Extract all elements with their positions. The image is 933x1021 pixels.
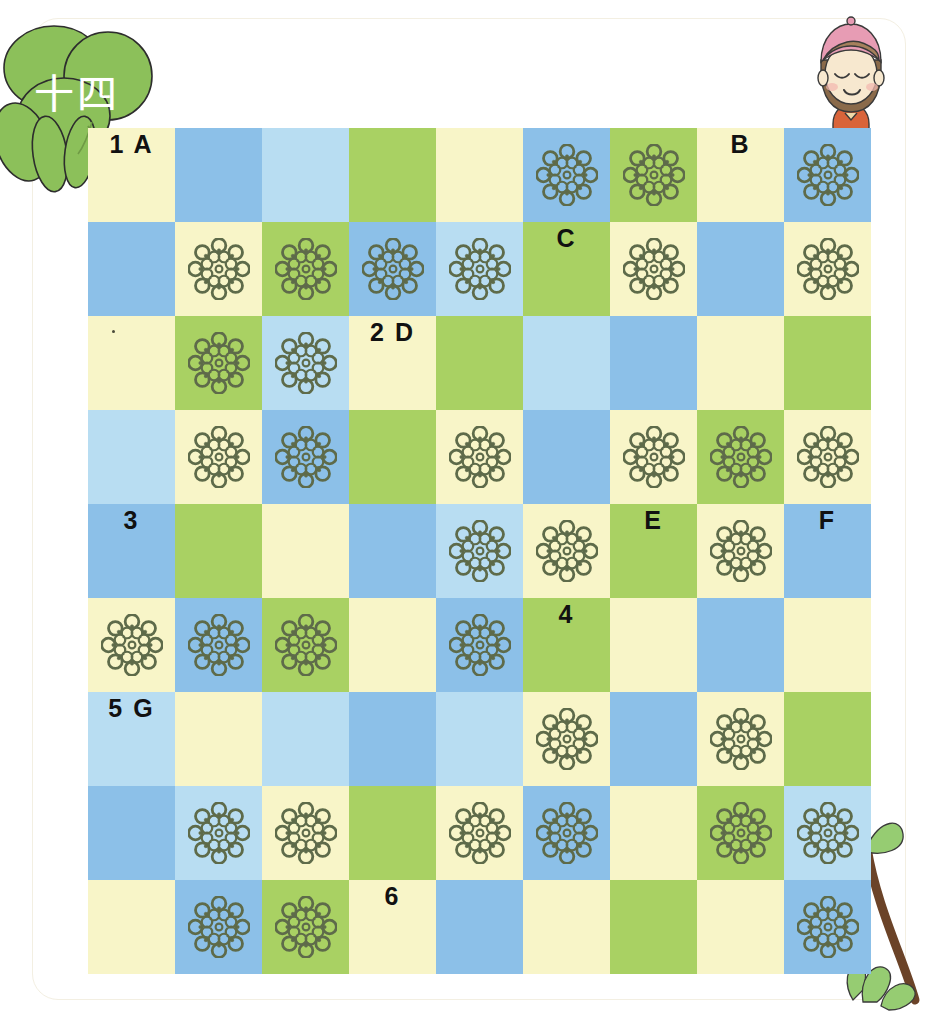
- grid-cell-r6-c2[interactable]: [175, 598, 262, 692]
- grid-cell-r9-c8[interactable]: [697, 880, 784, 974]
- grid-cell-r9-c3[interactable]: [262, 880, 349, 974]
- grid-cell-r8-c6[interactable]: [523, 786, 610, 880]
- flower-rosette-icon: [710, 520, 772, 582]
- grid-cell-r9-c7[interactable]: [610, 880, 697, 974]
- grid-cell-r8-c1[interactable]: [88, 786, 175, 880]
- grid-cell-r1-c9[interactable]: [784, 128, 871, 222]
- grid-cell-r8-c7[interactable]: [610, 786, 697, 880]
- grid-cell-r5-c7[interactable]: E: [610, 504, 697, 598]
- checkerboard-grid: 1 ABC2 D3EF45 G6: [88, 128, 871, 974]
- grid-cell-r6-c6[interactable]: 4: [523, 598, 610, 692]
- grid-cell-r9-c1[interactable]: [88, 880, 175, 974]
- grid-cell-r5-c9[interactable]: F: [784, 504, 871, 598]
- flower-rosette-icon: [101, 614, 163, 676]
- grid-cell-r5-c8[interactable]: [697, 504, 784, 598]
- grid-cell-r7-c3[interactable]: [262, 692, 349, 786]
- grid-cell-r5-c5[interactable]: [436, 504, 523, 598]
- grid-cell-r7-c1[interactable]: 5 G: [88, 692, 175, 786]
- grid-cell-r4-c4[interactable]: [349, 410, 436, 504]
- grid-cell-r8-c8[interactable]: [697, 786, 784, 880]
- grid-cell-r4-c8[interactable]: [697, 410, 784, 504]
- grid-cell-r1-c2[interactable]: [175, 128, 262, 222]
- grid-cell-r1-c1[interactable]: 1 A: [88, 128, 175, 222]
- grid-cell-r6-c4[interactable]: [349, 598, 436, 692]
- grid-cell-r5-c2[interactable]: [175, 504, 262, 598]
- grid-cell-r3-c4[interactable]: 2 D: [349, 316, 436, 410]
- flower-rosette-icon: [449, 520, 511, 582]
- grid-cell-r3-c5[interactable]: [436, 316, 523, 410]
- grid-cell-r2-c4[interactable]: [349, 222, 436, 316]
- grid-cell-r3-c2[interactable]: [175, 316, 262, 410]
- grid-cell-r9-c2[interactable]: [175, 880, 262, 974]
- grid-cell-r4-c9[interactable]: [784, 410, 871, 504]
- grid-cell-r7-c4[interactable]: [349, 692, 436, 786]
- grid-cell-r4-c5[interactable]: [436, 410, 523, 504]
- flower-rosette-icon: [275, 426, 337, 488]
- flower-rosette-icon: [275, 802, 337, 864]
- grid-cell-r1-c3[interactable]: [262, 128, 349, 222]
- grid-cell-r5-c3[interactable]: [262, 504, 349, 598]
- grid-cell-r5-c4[interactable]: [349, 504, 436, 598]
- grid-cell-r9-c5[interactable]: [436, 880, 523, 974]
- grid-cell-r4-c1[interactable]: [88, 410, 175, 504]
- flower-rosette-icon: [710, 802, 772, 864]
- flower-rosette-icon: [188, 802, 250, 864]
- flower-rosette-icon: [797, 426, 859, 488]
- flower-rosette-icon: [449, 614, 511, 676]
- grid-cell-r2-c8[interactable]: [697, 222, 784, 316]
- grid-cell-r1-c4[interactable]: [349, 128, 436, 222]
- grid-cell-r2-c9[interactable]: [784, 222, 871, 316]
- grid-cell-r1-c8[interactable]: B: [697, 128, 784, 222]
- grid-cell-r7-c9[interactable]: [784, 692, 871, 786]
- grid-cell-r4-c6[interactable]: [523, 410, 610, 504]
- grid-cell-r6-c9[interactable]: [784, 598, 871, 692]
- grid-cell-r9-c4[interactable]: 6: [349, 880, 436, 974]
- grid-cell-r7-c5[interactable]: [436, 692, 523, 786]
- grid-cell-r6-c1[interactable]: [88, 598, 175, 692]
- grid-cell-r4-c2[interactable]: [175, 410, 262, 504]
- grid-cell-r9-c9[interactable]: [784, 880, 871, 974]
- grid-cell-r4-c3[interactable]: [262, 410, 349, 504]
- grid-cell-r2-c6[interactable]: C: [523, 222, 610, 316]
- grid-cell-r1-c5[interactable]: [436, 128, 523, 222]
- grid-cell-label: E: [644, 508, 663, 533]
- flower-rosette-icon: [449, 426, 511, 488]
- flower-rosette-icon: [536, 144, 598, 206]
- grid-cell-r2-c2[interactable]: [175, 222, 262, 316]
- grid-cell-r3-c9[interactable]: [784, 316, 871, 410]
- grid-cell-r8-c5[interactable]: [436, 786, 523, 880]
- grid-cell-r2-c7[interactable]: [610, 222, 697, 316]
- grid-cell-r1-c7[interactable]: [610, 128, 697, 222]
- grid-cell-r2-c1[interactable]: [88, 222, 175, 316]
- flower-rosette-icon: [536, 802, 598, 864]
- grid-cell-r7-c6[interactable]: [523, 692, 610, 786]
- grid-cell-label: 5 G: [108, 696, 154, 721]
- grid-cell-r8-c9[interactable]: [784, 786, 871, 880]
- grid-cell-r6-c3[interactable]: [262, 598, 349, 692]
- grid-cell-r6-c8[interactable]: [697, 598, 784, 692]
- grid-cell-r7-c8[interactable]: [697, 692, 784, 786]
- flower-rosette-icon: [275, 614, 337, 676]
- grid-cell-r7-c2[interactable]: [175, 692, 262, 786]
- grid-cell-r9-c6[interactable]: [523, 880, 610, 974]
- grid-cell-r1-c6[interactable]: [523, 128, 610, 222]
- grid-cell-r3-c6[interactable]: [523, 316, 610, 410]
- grid-cell-r3-c7[interactable]: [610, 316, 697, 410]
- grid-cell-r6-c7[interactable]: [610, 598, 697, 692]
- grid-cell-r5-c6[interactable]: [523, 504, 610, 598]
- flower-rosette-icon: [188, 614, 250, 676]
- grid-cell-r8-c4[interactable]: [349, 786, 436, 880]
- grid-cell-r8-c3[interactable]: [262, 786, 349, 880]
- flower-rosette-icon: [797, 802, 859, 864]
- grid-cell-r3-c3[interactable]: [262, 316, 349, 410]
- grid-cell-r7-c7[interactable]: [610, 692, 697, 786]
- grid-cell-r4-c7[interactable]: [610, 410, 697, 504]
- grid-cell-r6-c5[interactable]: [436, 598, 523, 692]
- grid-cell-r5-c1[interactable]: 3: [88, 504, 175, 598]
- flower-rosette-icon: [536, 708, 598, 770]
- grid-cell-r3-c1[interactable]: [88, 316, 175, 410]
- grid-cell-r2-c5[interactable]: [436, 222, 523, 316]
- grid-cell-r8-c2[interactable]: [175, 786, 262, 880]
- grid-cell-r2-c3[interactable]: [262, 222, 349, 316]
- grid-cell-r3-c8[interactable]: [697, 316, 784, 410]
